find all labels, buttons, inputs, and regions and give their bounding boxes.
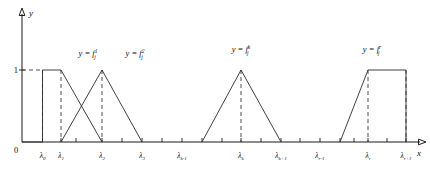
- membership-curve: [61, 70, 142, 142]
- curve-label: y = f1j: [78, 48, 98, 61]
- membership-curve: [22, 70, 102, 142]
- tick-label: λk-1: [176, 151, 187, 161]
- y-axis-label: y: [28, 8, 33, 18]
- tick-label: λr: [364, 151, 370, 161]
- tick-label: λ0: [39, 151, 46, 161]
- x-axis-label: x: [416, 148, 421, 158]
- curve-label: y = fkj: [231, 44, 251, 57]
- origin-label: 0: [14, 145, 18, 155]
- tick-label: λ2: [98, 151, 105, 161]
- membership-curve: [202, 70, 281, 142]
- membership-curve: [340, 70, 406, 142]
- tick-label: λk+1: [274, 151, 286, 161]
- curve-label: y = f2j: [125, 48, 145, 61]
- y-axis-group: y: [19, 8, 33, 142]
- y-unit-label: 1: [14, 65, 18, 75]
- curve-label: y = frj: [362, 44, 382, 57]
- fuzzy-membership-chart: y x 0 1 λ0λ1λ2λ3λk-1λkλk+1λr-1λrλr+1 y =…: [0, 0, 430, 177]
- membership-curves: [22, 70, 406, 142]
- figure-container: y x 0 1 λ0λ1λ2λ3λk-1λkλk+1λr-1λrλr+1 y =…: [0, 0, 430, 177]
- tick-label: λ3: [138, 151, 145, 161]
- tick-label: λk: [237, 151, 244, 161]
- curve-labels: y = f1jy = f2jy = fkjy = frj: [78, 44, 382, 61]
- x-axis-ticks: [43, 138, 407, 142]
- tick-label: λr-1: [314, 151, 324, 161]
- x-axis-tick-labels: λ0λ1λ2λ3λk-1λkλk+1λr-1λrλr+1: [39, 151, 412, 161]
- tick-label: λr+1: [399, 151, 411, 161]
- tick-label: λ1: [57, 151, 64, 161]
- dashed-guides: [22, 70, 406, 142]
